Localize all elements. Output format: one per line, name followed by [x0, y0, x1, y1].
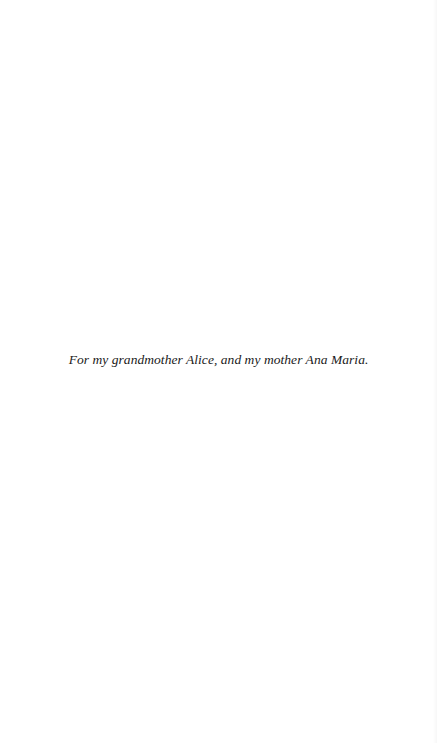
dedication-text: For my grandmother Alice, and my mother …: [0, 349, 437, 371]
page-edge-shadow: [433, 0, 437, 743]
book-page: For my grandmother Alice, and my mother …: [0, 0, 437, 743]
